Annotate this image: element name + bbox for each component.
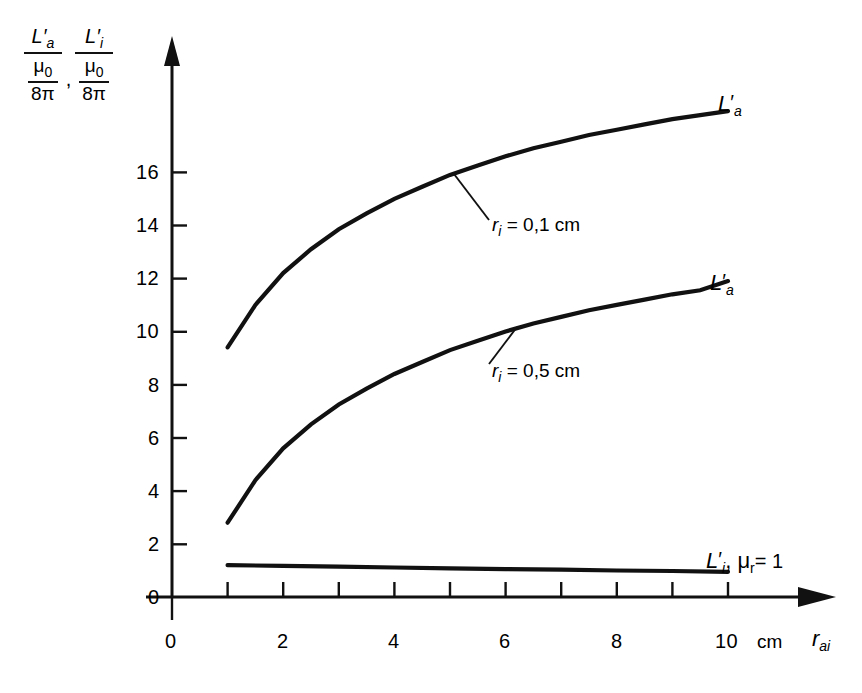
y-axis-label-denominator-outer: μ0 8π (24, 54, 62, 106)
subscript-i-annot1: i (498, 223, 501, 239)
y-axis-label-numerator-outer: L′a (28, 26, 59, 52)
y-axis-label-denominator-inner: μ0 8π (75, 54, 113, 106)
eight-pi-term-2: 8π (79, 83, 109, 106)
y-tick-label-6: 6 (148, 428, 160, 448)
subscript-a-mid: a (726, 282, 734, 298)
x-axis-unit-cm: cm (757, 632, 782, 651)
x-tick-label-10: 10 (715, 631, 738, 651)
series-label-inner: L′i, μr= 1 (706, 550, 783, 575)
y-tick-label-14: 14 (136, 215, 159, 235)
annotation-ri-05: ri = 0,5 cm (492, 361, 580, 384)
annotation-ri-01-value: = 0,1 cm (507, 214, 580, 235)
y-axis-label: L′a μ0 8π , L′i μ0 8π (24, 26, 113, 106)
y-tick-label-2: 2 (148, 534, 160, 554)
series-curve-outer-01-smooth (228, 111, 728, 347)
mu-zero-term-2: μ0 (82, 55, 107, 81)
y-tick-label-4: 4 (148, 481, 160, 501)
label-comma-bot: , (725, 548, 731, 573)
series-label-outer-01: L′a (718, 93, 742, 118)
subscript-zero: 0 (44, 64, 52, 80)
mu-glyph: μ (737, 548, 750, 573)
annotation-ri-01: ri = 0,1 cm (492, 215, 580, 238)
subscript-ai: ai (819, 638, 830, 654)
y-tick-label-16: 16 (136, 162, 159, 182)
prime-glyph-top: ′ (730, 91, 734, 113)
series-label-outer-05: L′a (710, 272, 734, 297)
y-axis-ticks (172, 172, 187, 544)
x-tick-label-8: 8 (611, 631, 623, 651)
subscript-zero-2: 0 (96, 64, 104, 80)
y-axis-label-term-inner: L′i μ0 8π (75, 26, 113, 106)
y-axis-label-term-outer: L′a μ0 8π (24, 26, 62, 106)
y-tick-label-12: 12 (136, 268, 159, 288)
y-axis-label-numerator-inner: L′i (81, 26, 107, 52)
prime-glyph-bot: ′ (718, 548, 722, 570)
inductance-chart-figure: L′a μ0 8π , L′i μ0 8π (0, 0, 862, 693)
subscript-i-annot2: i (498, 369, 501, 385)
x-tick-label-0: 0 (165, 631, 177, 651)
leader-line-top-annotation (454, 174, 489, 220)
y-tick-label-8: 8 (148, 375, 160, 395)
y-tick-label-10: 10 (136, 321, 159, 341)
mu-r-value: = 1 (755, 550, 783, 572)
y-tick-label-0: 0 (148, 587, 160, 607)
y-axis-arrowhead (164, 36, 180, 66)
mu-zero-term: μ0 (30, 55, 55, 81)
x-axis-arrowhead (798, 587, 836, 607)
prime-glyph-mid: ′ (722, 270, 726, 292)
x-tick-label-2: 2 (277, 631, 289, 651)
label-separator-comma: , (66, 42, 72, 91)
x-tick-label-4: 4 (388, 631, 400, 651)
x-axis-variable-label: rai (812, 628, 830, 653)
x-tick-label-6: 6 (499, 631, 511, 651)
series-curve-inner (228, 565, 728, 572)
x-axis-ticks (172, 582, 728, 620)
subscript-a-top: a (734, 103, 742, 119)
series-curve-outer-05 (228, 281, 728, 523)
eight-pi-term: 8π (28, 83, 58, 106)
subscript-i: i (100, 35, 103, 51)
subscript-a: a (46, 35, 54, 51)
annotation-ri-05-value: = 0,5 cm (507, 360, 580, 381)
